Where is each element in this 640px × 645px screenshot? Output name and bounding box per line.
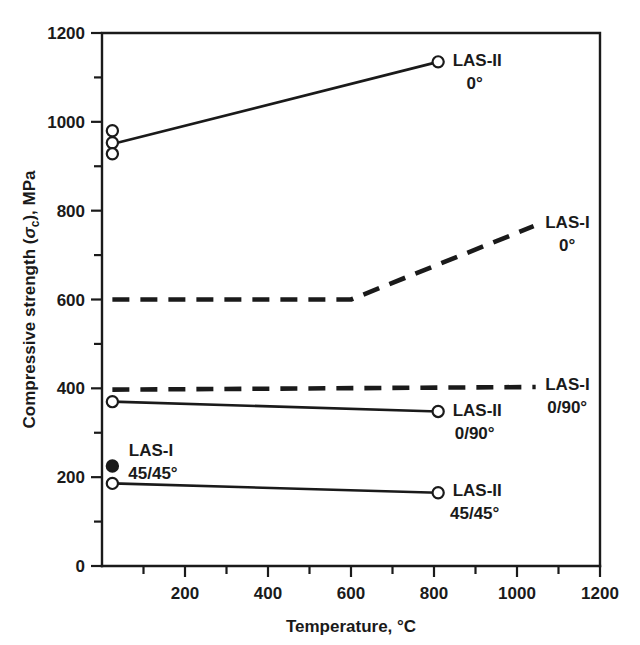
y-axis-title: Compressive strength (σc), MPa bbox=[20, 170, 42, 428]
data-markers bbox=[107, 56, 444, 498]
series-marker bbox=[107, 478, 118, 489]
point-sublabel-0: 45/45° bbox=[128, 464, 178, 483]
y-tick-label: 800 bbox=[57, 202, 85, 221]
x-tick-label: 600 bbox=[337, 584, 365, 603]
series-label-4: LAS-II bbox=[453, 481, 502, 500]
y-tick-label: 200 bbox=[57, 468, 85, 487]
y-tick-label: 1200 bbox=[47, 24, 85, 43]
series-line-4 bbox=[112, 483, 438, 492]
series-sublabel-0: 0° bbox=[467, 74, 483, 93]
series-label-1: LAS-I bbox=[545, 213, 589, 232]
series-sublabel-1: 0° bbox=[559, 236, 575, 255]
y-tick-label: 0 bbox=[76, 557, 85, 576]
y-tick-label: 1000 bbox=[47, 113, 85, 132]
point-label-0: LAS-I bbox=[129, 441, 173, 460]
series-marker bbox=[107, 396, 118, 407]
x-tick-label: 400 bbox=[254, 584, 282, 603]
series-line-3 bbox=[112, 402, 438, 412]
tick-marks bbox=[91, 33, 600, 577]
series-sublabel-2: 0/90° bbox=[547, 398, 587, 417]
series-marker bbox=[107, 148, 118, 159]
figure-container: 0200400600800100012002004006008001000120… bbox=[0, 0, 640, 645]
x-tick-label: 200 bbox=[171, 584, 199, 603]
series-marker bbox=[433, 406, 444, 417]
standalone-marker-0 bbox=[107, 460, 118, 471]
y-tick-label: 400 bbox=[57, 379, 85, 398]
series-line-1 bbox=[112, 226, 533, 299]
x-tick-label: 800 bbox=[420, 584, 448, 603]
compressive-strength-vs-temperature-chart: 0200400600800100012002004006008001000120… bbox=[0, 0, 640, 645]
tick-labels: 0200400600800100012002004006008001000120… bbox=[47, 24, 619, 603]
series-marker bbox=[433, 487, 444, 498]
series-label-3: LAS-II bbox=[453, 401, 502, 420]
x-tick-label: 1000 bbox=[498, 584, 536, 603]
series-sublabel-3: 0/90° bbox=[455, 424, 495, 443]
series-line-2 bbox=[112, 387, 535, 390]
x-axis-title: Temperature, °C bbox=[286, 617, 416, 636]
series-label-0: LAS-II bbox=[453, 51, 502, 70]
y-tick-label: 600 bbox=[57, 291, 85, 310]
series-label-2: LAS-I bbox=[545, 375, 589, 394]
series-line-0 bbox=[112, 62, 438, 144]
series-marker bbox=[107, 125, 118, 136]
series-sublabel-4: 45/45° bbox=[450, 504, 500, 523]
x-tick-label: 1200 bbox=[581, 584, 619, 603]
series-marker bbox=[433, 56, 444, 67]
series-marker bbox=[107, 137, 118, 148]
